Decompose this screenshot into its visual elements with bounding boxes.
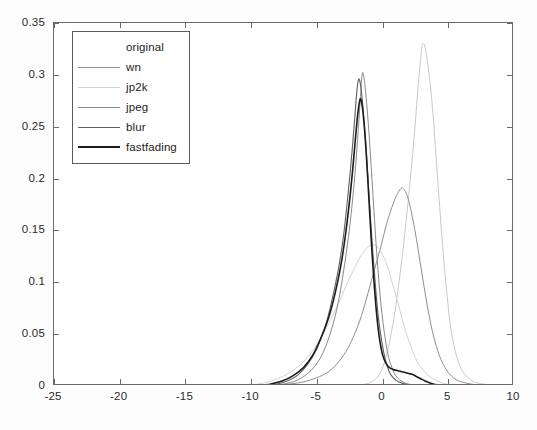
y-tick (54, 282, 59, 283)
x-tick (383, 379, 384, 384)
x-tick (185, 379, 186, 384)
x-tick (448, 379, 449, 384)
figure-canvas: -25-20-15-10-50510 00.050.10.150.20.250.… (0, 0, 537, 430)
y-tick (54, 230, 59, 231)
legend-item-original[interactable]: original (73, 37, 189, 57)
legend-item-jpeg[interactable]: jpeg (73, 97, 189, 117)
x-tick-label: -20 (110, 390, 127, 402)
y-tick-right (507, 282, 512, 283)
y-tick-label: 0.05 (0, 327, 45, 339)
y-tick-label: 0.15 (0, 223, 45, 235)
series-curve-blur (264, 79, 513, 385)
y-tick (54, 179, 59, 180)
legend-item-blur[interactable]: blur (73, 117, 189, 137)
y-tick-label: 0 (0, 379, 45, 391)
y-tick-label: 0.25 (0, 120, 45, 132)
legend-label: original (126, 41, 164, 53)
x-tick-label: 0 (378, 390, 385, 402)
x-tick-top (448, 23, 449, 28)
x-tick (120, 379, 121, 384)
y-tick-label: 0.2 (0, 172, 45, 184)
y-tick-right (507, 127, 512, 128)
y-tick-label: 0.35 (0, 16, 45, 28)
legend-line-swatch-fastfading (78, 146, 120, 148)
legend-item-wn[interactable]: wn (73, 57, 189, 77)
x-tick-top (383, 23, 384, 28)
legend-line-swatch-wn (78, 67, 120, 68)
legend-line-swatch-jp2k (78, 87, 120, 88)
x-tick-label: -5 (311, 390, 322, 402)
legend-label: wn (126, 61, 141, 73)
y-tick-label: 0.1 (0, 275, 45, 287)
legend-line-swatch-jpeg (78, 107, 120, 108)
y-tick (54, 23, 59, 24)
series-curve-original (343, 43, 513, 385)
x-tick (317, 379, 318, 384)
x-tick-label: 5 (444, 390, 451, 402)
x-tick-label: -10 (242, 390, 259, 402)
x-tick-top (185, 23, 186, 28)
x-tick (251, 379, 252, 384)
y-tick-label: 0.3 (0, 68, 45, 80)
legend-item-jp2k[interactable]: jp2k (73, 77, 189, 97)
legend-label: jpeg (126, 101, 148, 113)
x-tick-label: -25 (44, 390, 61, 402)
legend-label: blur (126, 121, 146, 133)
x-tick-top (120, 23, 121, 28)
y-tick (54, 127, 59, 128)
y-tick (54, 334, 59, 335)
y-tick-right (507, 334, 512, 335)
y-tick-right (507, 75, 512, 76)
y-tick-right (507, 230, 512, 231)
y-tick (54, 75, 59, 76)
x-tick-label: -15 (176, 390, 193, 402)
legend-box: originalwnjp2kjpegblurfastfading (72, 31, 190, 164)
x-tick-top (317, 23, 318, 28)
series-curve-jpeg (271, 73, 513, 385)
legend-item-fastfading[interactable]: fastfading (73, 137, 189, 157)
x-tick-label: 10 (506, 390, 519, 402)
legend-line-swatch-blur (78, 127, 120, 128)
x-tick-top (251, 23, 252, 28)
y-tick-right (507, 23, 512, 24)
y-tick-right (507, 179, 512, 180)
legend-label: fastfading (126, 141, 177, 153)
x-tick (54, 379, 55, 384)
legend-label: jp2k (126, 81, 148, 93)
